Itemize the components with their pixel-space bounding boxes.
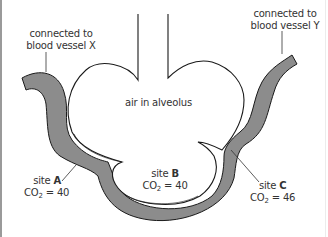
site-a-co2-sub: 2	[38, 192, 42, 200]
site-c-co2-sub: 2	[264, 197, 268, 205]
site-b-co2-value: = 40	[164, 180, 187, 191]
site-a-co2-value: = 40	[46, 187, 69, 198]
site-a-id: A	[53, 175, 61, 186]
site-c-co2-label: CO	[250, 192, 264, 203]
label-site-b-co2: CO2 = 40	[137, 180, 193, 192]
label-vessel-x-line1: connected to	[16, 28, 106, 40]
site-b-id: B	[171, 168, 178, 179]
site-c-co2-value: = 46	[272, 192, 295, 203]
label-vessel-y-line2: blood vessel Y	[245, 20, 325, 32]
site-b-co2-label: CO	[142, 180, 156, 191]
label-site-c: site C	[259, 180, 286, 192]
site-c-prefix: site	[259, 180, 276, 191]
site-a-co2-label: CO	[24, 187, 38, 198]
site-b-co2-sub: 2	[157, 185, 161, 193]
label-vessel-x: connected to blood vessel X	[16, 28, 106, 52]
label-site-a: site A	[27, 175, 61, 187]
site-b-prefix: site	[151, 168, 168, 179]
label-vessel-x-line2: blood vessel X	[16, 40, 106, 52]
label-site-a-co2: CO2 = 40	[24, 187, 69, 199]
site-a-prefix: site	[33, 175, 50, 186]
label-site-b: site B	[140, 168, 190, 180]
label-alveolus: air in alveolus	[125, 97, 192, 109]
site-c-id: C	[279, 180, 286, 191]
label-vessel-y-line1: connected to	[245, 8, 325, 20]
label-site-c-co2: CO2 = 46	[250, 192, 295, 204]
label-vessel-y: connected to blood vessel Y	[245, 8, 325, 32]
pointer-site-a	[62, 165, 76, 181]
